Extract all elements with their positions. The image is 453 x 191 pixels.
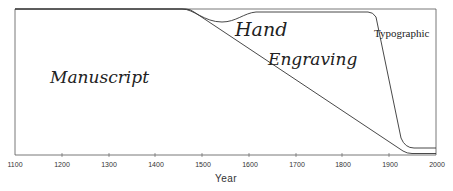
tick-label: 1100 <box>7 161 22 168</box>
tick-label: 1400 <box>148 161 164 168</box>
tick-label: 1300 <box>101 161 117 168</box>
label-hand: Hand <box>234 18 287 40</box>
chart-canvas: Manuscript Hand Engraving Typographic 11… <box>0 0 453 191</box>
label-engraving: Engraving <box>267 49 357 69</box>
tick-label: 1200 <box>54 161 70 168</box>
tick-label: 1800 <box>335 161 351 168</box>
x-axis-title: Year <box>215 173 237 184</box>
tick-label: 1600 <box>242 161 258 168</box>
tick-label: 1700 <box>289 161 305 168</box>
tick-label: 1500 <box>195 161 211 168</box>
label-manuscript: Manuscript <box>49 67 149 87</box>
tick-label: 1900 <box>382 161 398 168</box>
label-typographic: Typographic <box>374 27 430 39</box>
x-axis-tick-labels: 1100 1200 1300 1400 1500 1600 1700 1800 … <box>7 161 444 168</box>
tick-label: 2000 <box>429 161 445 168</box>
